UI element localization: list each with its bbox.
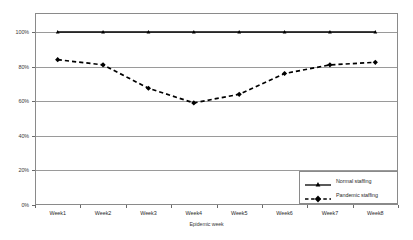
legend-item-pandemic-staffing[interactable]: Pandemic staffing: [304, 189, 378, 201]
y-tick-mark: [32, 170, 35, 171]
x-tick-label-week8: Week8: [367, 210, 383, 216]
x-tick-label-week4: Week4: [186, 210, 202, 216]
y-tick-label: 0%: [0, 202, 29, 208]
legend: Normal staffing Pandemic staffing: [299, 171, 398, 204]
x-tick-label-week7: Week7: [322, 210, 338, 216]
chart-container: 0%20%40%60%80%100% Week1Week2Week3Week4W…: [0, 0, 413, 240]
x-tick-mark: [307, 205, 308, 208]
x-tick-mark: [262, 205, 263, 208]
gridline: [36, 67, 397, 68]
x-tick-mark: [126, 205, 127, 208]
y-tick-mark: [32, 136, 35, 137]
y-tick-label: 100%: [0, 29, 29, 35]
x-tick-mark: [353, 205, 354, 208]
x-tick-label-week2: Week2: [95, 210, 111, 216]
x-tick-mark: [35, 205, 36, 208]
x-tick-mark: [217, 205, 218, 208]
y-tick-mark: [32, 32, 35, 33]
y-tick-label: 40%: [0, 133, 29, 139]
y-tick-label: 20%: [0, 167, 29, 173]
x-tick-label-week6: Week6: [276, 210, 292, 216]
gridline: [36, 136, 397, 137]
x-tick-label-week5: Week5: [231, 210, 247, 216]
gridline: [36, 32, 397, 33]
y-tick-label: 80%: [0, 64, 29, 70]
y-tick-mark: [32, 67, 35, 68]
gridline: [36, 101, 397, 102]
legend-label-normal-staffing: Normal staffing: [336, 178, 371, 184]
y-tick-label: 60%: [0, 98, 29, 104]
legend-item-normal-staffing[interactable]: Normal staffing: [304, 175, 371, 187]
legend-swatch-solid-triangle-icon: [304, 176, 332, 186]
legend-swatch-dashed-diamond-icon: [304, 190, 332, 200]
y-tick-mark: [32, 101, 35, 102]
x-axis-title: Epidemic week: [0, 221, 413, 227]
x-tick-mark: [398, 205, 399, 208]
x-tick-label-week1: Week1: [49, 210, 65, 216]
legend-label-pandemic-staffing: Pandemic staffing: [336, 192, 378, 198]
x-tick-mark: [80, 205, 81, 208]
x-tick-label-week3: Week3: [140, 210, 156, 216]
x-tick-mark: [171, 205, 172, 208]
